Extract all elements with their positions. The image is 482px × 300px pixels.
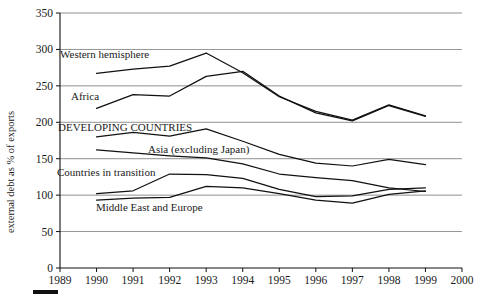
x-tick-label-1991: 1991 <box>122 274 145 286</box>
y-tick-label-100: 100 <box>36 189 54 201</box>
x-tick-label-1999: 1999 <box>414 274 437 286</box>
y-tick-label-150: 150 <box>36 153 54 165</box>
y-tick-label-350: 350 <box>36 7 54 19</box>
x-axis-ticks: 1989199019911992199319941995199619971998… <box>49 268 474 286</box>
x-tick-label-2000: 2000 <box>451 274 474 286</box>
y-axis-title-text: external debt as % of exports <box>5 111 16 233</box>
y-axis-title: external debt as % of exports <box>5 111 16 233</box>
series-label-africa: Africa <box>71 90 99 102</box>
y-tick-label-250: 250 <box>36 80 54 92</box>
x-tick-label-1998: 1998 <box>377 274 400 286</box>
series-labels: Western hemisphereAfricaDEVELOPING COUNT… <box>57 48 250 213</box>
x-tick-label-1992: 1992 <box>158 274 181 286</box>
series-line-developing-countries <box>97 129 426 166</box>
x-tick-label-1996: 1996 <box>304 274 327 286</box>
y-tick-label-0: 0 <box>47 262 53 274</box>
x-tick-label-1989: 1989 <box>49 274 72 286</box>
series-label-asia-excluding-japan: Asia (excluding Japan) <box>148 143 250 156</box>
line-chart: 050100150200250300350 198919901991199219… <box>0 0 482 300</box>
x-tick-label-1993: 1993 <box>195 274 218 286</box>
x-tick-label-1997: 1997 <box>341 274 364 286</box>
series-line-africa <box>97 71 426 121</box>
x-tick-label-1995: 1995 <box>268 274 291 286</box>
y-tick-label-200: 200 <box>36 116 54 128</box>
series-label-middle-east-and-europe: Middle East and Europe <box>96 201 203 213</box>
x-tick-label-1990: 1990 <box>85 274 108 286</box>
series-line-western-hemisphere <box>97 53 426 120</box>
series-label-countries-in-transition: Countries in transition <box>57 166 156 178</box>
corner-black-bar <box>33 290 58 294</box>
series-label-western-hemisphere: Western hemisphere <box>60 48 149 60</box>
chart-container: 050100150200250300350 198919901991199219… <box>0 0 482 300</box>
y-tick-label-300: 300 <box>36 43 54 55</box>
series-label-developing-countries: DEVELOPING COUNTRIES <box>58 121 192 133</box>
y-tick-label-50: 50 <box>42 226 54 238</box>
x-tick-label-1994: 1994 <box>231 274 254 286</box>
y-axis-ticks: 050100150200250300350 <box>36 7 60 274</box>
